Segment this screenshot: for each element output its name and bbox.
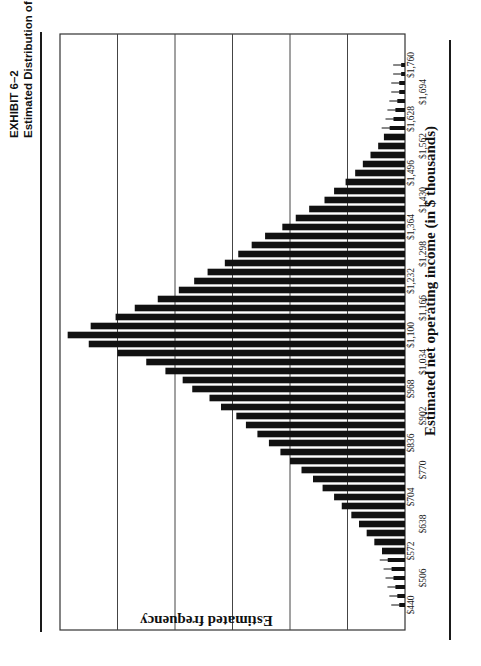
histogram-bar [165,368,405,375]
x-axis-label: Estimated net operating income (in $ tho… [422,126,439,436]
histogram-bar [382,548,405,555]
x-tick-label: $1,628 [406,106,416,132]
histogram-bar [246,422,405,429]
histogram-bar [367,530,405,537]
histogram-bar [342,503,405,510]
histogram-bar [399,603,405,607]
histogram-bar [238,251,405,258]
histogram-bar [401,63,405,67]
x-tick-label: $1,232 [406,268,416,294]
histogram-bar [135,305,405,312]
histogram-bar [394,576,406,580]
histogram-bar [208,269,405,276]
histogram-bar [399,81,405,85]
histogram-bar [323,485,405,492]
x-tick-label: $1,496 [406,160,416,186]
histogram-bar [265,233,405,240]
histogram-bar [371,152,406,159]
x-tick-label: $704 [406,487,416,506]
histogram-bar [325,197,406,204]
histogram-bar [89,341,405,348]
histogram-bar [183,377,405,384]
y-axis-label: Estimated frequency [140,612,273,629]
histogram-bar [210,395,406,402]
histogram-bar [374,539,405,546]
histogram-bar [225,260,405,267]
histogram-bar [269,440,405,447]
histogram-bar [378,143,405,150]
histogram-bar [397,594,405,598]
x-tick-label: $440 [406,595,416,614]
histogram-bar [296,215,405,222]
histogram-bar [68,332,405,339]
histogram-bar [401,72,405,76]
histogram-bar [221,404,405,411]
histogram-bar [397,99,405,103]
histogram-bar [313,476,405,483]
histogram-bar [392,567,405,571]
histogram-bar [334,188,405,195]
x-axis-label-wrap: Estimated net operating income (in $ tho… [422,0,452,666]
x-tick-label: $572 [406,541,416,560]
histogram-bar [179,287,405,294]
x-tick-label: $1,364 [406,214,416,240]
histogram-bar [252,242,405,249]
histogram-bar [158,296,405,303]
histogram-bar [282,224,405,231]
x-tick-label: $1,100 [406,322,416,348]
histogram-bar [309,206,405,213]
histogram-bar [146,359,405,366]
histogram-bar [334,494,405,501]
histogram-bar [395,585,405,589]
histogram-bar [394,117,406,121]
histogram-bar [91,323,405,330]
histogram-bar [390,126,405,130]
histogram-bar [192,386,405,393]
histogram-bar [116,314,405,321]
histogram-bar [399,90,405,94]
histogram-bar [351,512,405,519]
histogram-chart: $440$506$572$638$704$770$836$902$968$1,0… [0,0,481,666]
histogram-bar [388,558,405,562]
x-tick-label: $968 [406,379,416,398]
histogram-bar [257,431,405,438]
x-tick-label: $836 [406,433,416,452]
histogram-bar [194,278,405,285]
histogram-bar [280,449,405,456]
histogram-bar [302,467,406,474]
x-tick-label: $1,760 [406,52,416,78]
histogram-bar [346,179,405,186]
histogram-bar [359,521,405,528]
histogram-bar [363,161,405,168]
histogram-bar [236,413,405,420]
histogram-bar [290,458,405,465]
histogram-bar [384,134,405,141]
histogram-bar [355,170,405,177]
histogram-bar [118,350,406,357]
histogram-bar [395,108,405,112]
